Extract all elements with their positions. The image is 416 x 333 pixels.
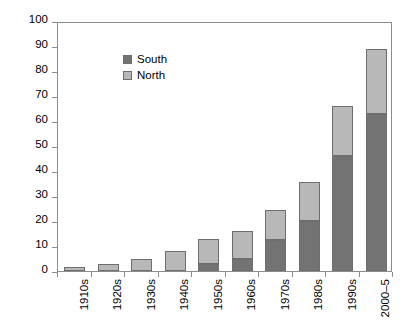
- y-axis-tick-label: 0: [42, 264, 48, 276]
- y-axis-tick-label: 80: [35, 64, 48, 76]
- bar-segment-south: [265, 240, 286, 271]
- bar-segment-south: [366, 114, 387, 272]
- x-axis-tick-mark: [191, 272, 192, 277]
- x-axis-tick-mark: [91, 272, 92, 277]
- bar-segment-north: [165, 251, 186, 271]
- bar-segment-north: [198, 239, 219, 264]
- y-axis-tick-label: 40: [35, 164, 48, 176]
- x-axis-tick-label: 1980s: [313, 279, 325, 310]
- x-axis-tick-label: 2000–5: [380, 279, 392, 317]
- y-axis-tick-label: 50: [35, 139, 48, 151]
- bar-group: [332, 21, 353, 271]
- legend-entry: South: [123, 52, 203, 67]
- x-axis-labels: 1910s1920s1930s1940s1950s1960s1970s1980s…: [57, 279, 392, 333]
- bar-group: [265, 21, 286, 271]
- x-axis-tick-label: 1910s: [79, 279, 91, 310]
- bar-group: [232, 21, 253, 271]
- legend-swatch-icon: [123, 71, 132, 80]
- x-axis: [57, 272, 392, 278]
- y-axis-tick-label: 30: [35, 189, 48, 201]
- x-axis-tick-mark: [225, 272, 226, 277]
- y-axis-tick-label: 10: [35, 239, 48, 251]
- bar-group: [98, 21, 119, 271]
- x-axis-tick-mark: [359, 272, 360, 277]
- x-axis-tick-label: 1990s: [347, 279, 359, 310]
- bar-segment-north: [332, 106, 353, 156]
- bar-chart: 0102030405060708090100 SouthNorth 1910s1…: [0, 0, 416, 333]
- bars-layer: [58, 23, 391, 271]
- bar-segment-north: [265, 210, 286, 240]
- x-axis-tick-label: 1930s: [146, 279, 158, 310]
- x-axis-tick-label: 1960s: [246, 279, 258, 310]
- x-axis-tick-mark: [325, 272, 326, 277]
- bar-segment-south: [198, 264, 219, 272]
- x-axis-tick-mark: [292, 272, 293, 277]
- legend-label: South: [137, 54, 167, 66]
- bar-segment-north: [98, 264, 119, 272]
- bar-segment-south: [332, 156, 353, 271]
- bar-group: [64, 21, 85, 271]
- bar-segment-north: [232, 231, 253, 259]
- bar-segment-south: [232, 259, 253, 272]
- legend-swatch-icon: [123, 55, 132, 64]
- x-axis-tick-mark: [124, 272, 125, 277]
- bar-segment-north: [299, 182, 320, 221]
- x-axis-tick-mark: [57, 272, 58, 277]
- y-axis-tick-label: 90: [35, 39, 48, 51]
- x-axis-tick-label: 1950s: [213, 279, 225, 310]
- bar-group: [299, 21, 320, 271]
- y-axis-tick-label: 70: [35, 89, 48, 101]
- x-axis-tick-mark: [258, 272, 259, 277]
- plot-area: SouthNorth: [57, 22, 392, 272]
- x-axis-tick-mark: [392, 272, 393, 277]
- y-axis-tick-label: 60: [35, 114, 48, 126]
- bar-segment-north: [64, 267, 85, 271]
- legend-label: North: [137, 70, 165, 82]
- y-axis-tick-label: 100: [29, 14, 48, 26]
- y-axis: 0102030405060708090100: [0, 22, 57, 272]
- legend-entry: North: [123, 68, 203, 83]
- x-axis-tick-mark: [158, 272, 159, 277]
- chart-legend: SouthNorth: [123, 52, 203, 84]
- x-axis-tick-label: 1940s: [179, 279, 191, 310]
- y-axis-tick-label: 20: [35, 214, 48, 226]
- x-axis-tick-label: 1920s: [112, 279, 124, 310]
- bar-segment-north: [366, 49, 387, 114]
- bar-segment-north: [131, 259, 152, 272]
- bar-group: [366, 21, 387, 271]
- bar-segment-south: [299, 221, 320, 271]
- x-axis-tick-label: 1970s: [280, 279, 292, 310]
